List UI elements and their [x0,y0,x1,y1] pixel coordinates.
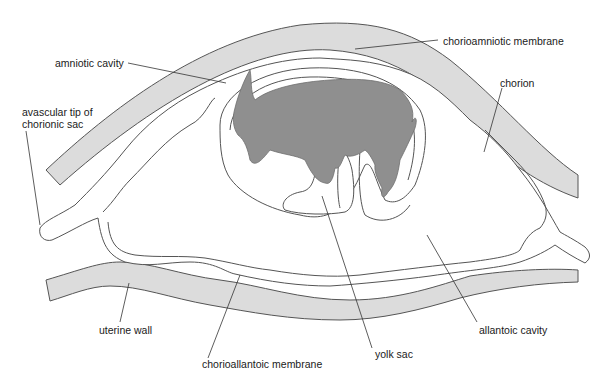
label-amniotic-cavity: amniotic cavity [55,57,124,69]
label-chorion: chorion [500,77,534,89]
leader-avascular-tip [26,131,40,225]
leader-uterine-wall [120,283,129,322]
label-chorioamniotic-membrane: chorioamniotic membrane [443,35,564,47]
label-avascular-tip-line1: avascular tip of [22,106,93,118]
label-avascular-tip-line2: chorionic sac [22,118,83,130]
label-chorioallantoic-membrane: chorioallantoic membrane [202,358,322,370]
label-allantoic-cavity: allantoic cavity [479,324,547,336]
fetal-membranes-diagram: amniotic cavity chorioamniotic membrane … [0,0,595,385]
label-yolk-sac: yolk sac [375,348,413,360]
label-uterine-wall: uterine wall [99,324,152,336]
